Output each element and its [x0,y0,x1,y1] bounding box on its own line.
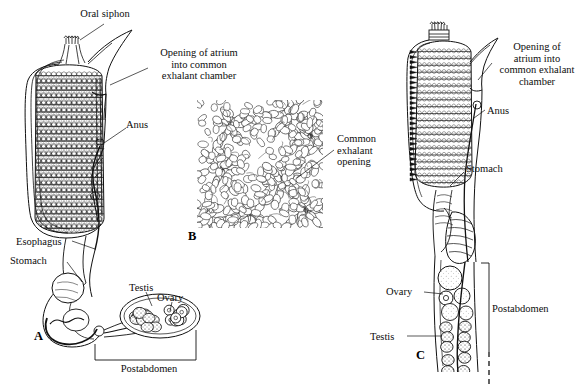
label-ovary-a: Ovary [157,292,191,304]
leader-opening-atrium-c [478,63,492,80]
postabdomen-left-wall-c [434,256,438,372]
neck-left-c [433,190,436,256]
gonads-c [438,266,473,388]
atrial-lobe-lower-a [92,92,106,120]
abdomen-a [43,273,104,347]
label-stomach-a: Stomach [10,255,68,267]
atrial-lobe-fold-a [88,43,112,64]
label-esophagus: Esophagus [16,236,74,248]
tunic-outline-left-c [407,40,444,211]
oral-siphon-c [429,22,449,40]
intestine-descending-a [90,250,95,297]
leader-anus-a [104,128,126,143]
panel-b-drawing [179,87,342,246]
leader-oral-siphon [80,24,104,40]
postabdomen-bracket-c [481,263,489,352]
leader-esophagus [72,241,95,249]
panel-letter-b: B [188,229,196,244]
stomach-a [52,273,84,303]
stigmata-rows-a [33,72,105,236]
panel-c-drawing [407,22,498,388]
stomach-c [446,212,476,264]
figure-container: Oral siphon Opening of atrium into commo… [0,0,581,389]
label-opening-atrium-c: Opening of atrium into common exhalant c… [494,41,580,87]
label-oral-siphon: Oral siphon [60,8,150,20]
intestinal-loop-a [63,309,89,331]
anus-opening-c [473,101,481,109]
label-stomach-c: Stomach [466,163,518,175]
label-postabdomen-a: Postabdomen [110,363,188,375]
label-testis-c: Testis [370,331,406,343]
label-opening-atrium-a: Opening of atrium into common exhalant c… [150,47,248,82]
label-ovary-c: Ovary [386,286,424,298]
panel-letter-a: A [34,329,43,344]
label-common-exhalant-opening: Common exhalant opening [337,133,397,168]
leader-anus-c [474,110,485,118]
postabdomen-right-wall-c [474,262,478,372]
label-anus-c: Anus [487,105,521,117]
leader-opening-atrium-a [110,68,148,85]
esophagus-right-wall-a [83,236,86,283]
label-postabdomen-c: Postabdomen [492,303,566,315]
label-anus-a: Anus [126,119,160,131]
stigmata-rows-c [415,49,473,184]
panel-letter-c: C [416,348,425,363]
